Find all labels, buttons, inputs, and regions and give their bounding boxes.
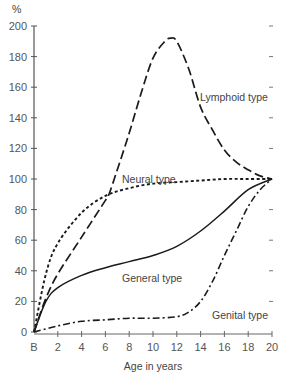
y-tick-label: 200: [9, 20, 27, 32]
x-tick-label: 18: [242, 341, 254, 353]
x-axis: B2468101214161820: [30, 331, 278, 353]
x-tick-label: 4: [79, 341, 85, 353]
x-tick-label: B: [30, 341, 37, 353]
y-tick-label: 180: [9, 51, 27, 63]
y-tick-label: 120: [9, 142, 27, 154]
neural-type-label: Neural type: [122, 173, 176, 185]
y-tick-label: 0: [21, 326, 27, 338]
y-tick-label: 140: [9, 112, 27, 124]
y-tick-label: 20: [15, 295, 27, 307]
x-tick-label: 16: [218, 341, 230, 353]
y-tick-label: 160: [9, 81, 27, 93]
lymphoid-type-label: Lymphoid type: [200, 91, 268, 103]
y-tick-label: 100: [9, 173, 27, 185]
genital-type-label: Genital type: [212, 309, 268, 321]
x-tick-label: 12: [171, 341, 183, 353]
growth-curves-chart: % 020406080100120140160180200 B246810121…: [0, 0, 285, 378]
x-tick-label: 14: [194, 341, 206, 353]
x-tick-label: 10: [147, 341, 159, 353]
y-axis-unit-label: %: [12, 3, 21, 15]
general-type-label: General type: [122, 272, 182, 284]
x-tick-label: 2: [55, 341, 61, 353]
y-axis: 020406080100120140160180200: [9, 20, 37, 338]
y-tick-label: 40: [15, 265, 27, 277]
x-tick-label: 6: [102, 341, 108, 353]
x-tick-label: 20: [266, 341, 278, 353]
right-tick-marks: [269, 26, 273, 301]
y-tick-label: 60: [15, 234, 27, 246]
x-tick-label: 8: [126, 341, 132, 353]
y-tick-label: 80: [15, 204, 27, 216]
x-axis-title: Age in years: [124, 360, 182, 372]
